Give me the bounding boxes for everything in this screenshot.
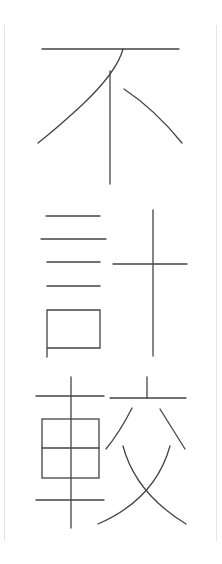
- character-ji: [41, 210, 187, 357]
- character-bu: [38, 49, 182, 184]
- character-jiao: [36, 377, 186, 528]
- vertical-calligraphy-artwork: [0, 0, 222, 564]
